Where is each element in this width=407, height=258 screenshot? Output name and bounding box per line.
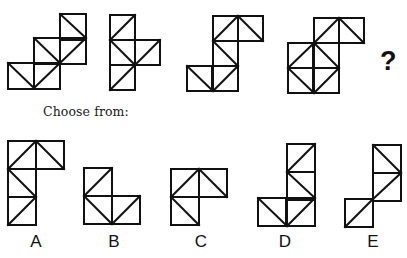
- diagonal-line: [345, 199, 373, 227]
- diagonal-line: [314, 18, 339, 43]
- option-figure-a[interactable]: [8, 141, 64, 225]
- option-figure-c[interactable]: [171, 169, 227, 225]
- question-mark: ?: [380, 46, 397, 77]
- diagonal-line: [110, 40, 135, 65]
- diagonal-line: [339, 18, 364, 43]
- option-figure-d[interactable]: [258, 144, 315, 226]
- option-label-a[interactable]: A: [21, 232, 51, 252]
- diagonal-line: [287, 198, 315, 226]
- diagonal-line: [373, 173, 401, 199]
- diagonal-line: [84, 168, 112, 196]
- diagonal-line: [60, 38, 86, 63]
- sequence-figure-1: [8, 14, 86, 89]
- diagonal-line: [238, 16, 263, 41]
- option-label-b[interactable]: B: [99, 232, 129, 252]
- diagonal-line: [171, 197, 199, 225]
- diagonal-line: [314, 43, 339, 68]
- sequence-figure-4: [288, 18, 364, 93]
- diagonal-line: [287, 144, 315, 172]
- option-label-e[interactable]: E: [358, 232, 388, 252]
- option-figure-b[interactable]: [84, 168, 140, 224]
- option-figure-e[interactable]: [345, 145, 401, 227]
- diagonal-line: [84, 196, 112, 224]
- diagonal-line: [112, 196, 140, 224]
- diagonal-line: [213, 66, 238, 91]
- diagonal-line: [135, 40, 160, 65]
- puzzle-canvas: [0, 0, 407, 258]
- sequence-figure-3: [187, 16, 263, 91]
- diagonal-line: [8, 169, 36, 197]
- diagonal-line: [287, 172, 315, 198]
- diagonal-line: [8, 141, 36, 169]
- diagonal-line: [34, 38, 60, 63]
- diagonal-line: [213, 16, 238, 41]
- diagonal-line: [36, 141, 64, 169]
- choose-from-label: Choose from:: [43, 104, 129, 119]
- diagonal-line: [258, 198, 287, 226]
- diagonal-line: [110, 65, 135, 90]
- option-figures: [8, 141, 401, 227]
- diagonal-line: [314, 68, 339, 93]
- diagonal-line: [199, 169, 227, 197]
- diagonal-line: [288, 43, 314, 68]
- diagonal-line: [60, 14, 86, 38]
- diagonal-line: [34, 63, 60, 88]
- diagonal-line: [8, 197, 36, 225]
- diagonal-line: [288, 68, 314, 93]
- option-label-d[interactable]: D: [270, 232, 300, 252]
- diagonal-line: [373, 145, 401, 173]
- diagonal-line: [171, 169, 199, 197]
- sequence-figures: [8, 14, 364, 93]
- diagonal-line: [8, 63, 34, 88]
- diagonal-line: [213, 41, 238, 66]
- diagonal-line: [110, 15, 135, 40]
- option-label-c[interactable]: C: [186, 232, 216, 252]
- sequence-figure-2: [110, 15, 160, 90]
- diagonal-line: [187, 66, 213, 91]
